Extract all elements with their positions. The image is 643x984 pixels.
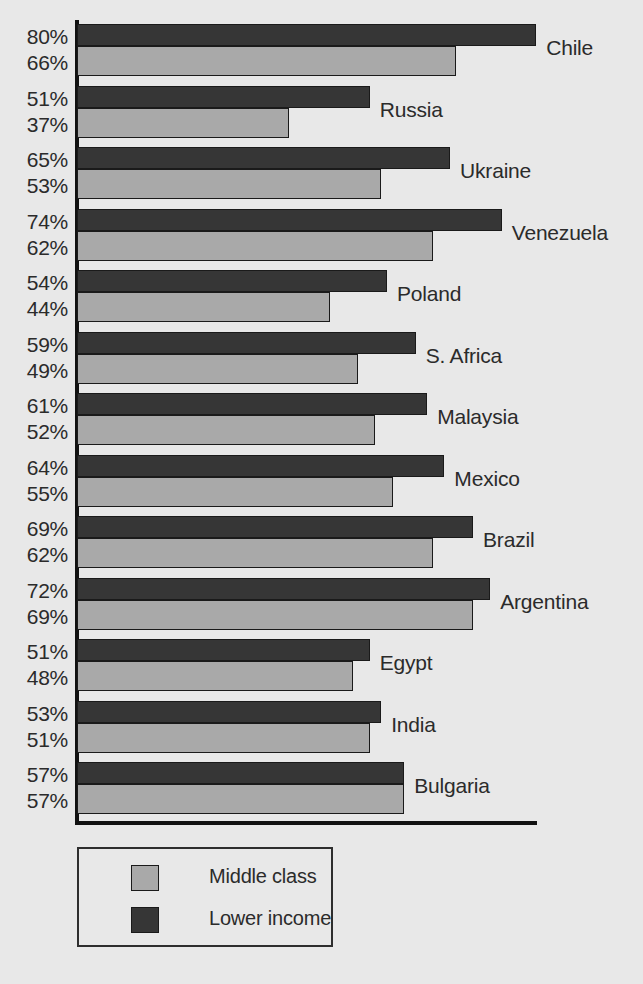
bar-lower-income (77, 701, 381, 723)
bar-row: 72%69%Argentina (0, 578, 643, 630)
category-label: Mexico (454, 467, 519, 491)
bar-middle-class (77, 415, 375, 445)
value-label-middle-class: 57% (0, 788, 68, 814)
category-label: Malaysia (437, 405, 518, 429)
bar-lower-income (77, 455, 444, 477)
value-label-middle-class: 53% (0, 173, 68, 199)
value-labels: 80%66% (0, 24, 68, 76)
chart-legend: Middle class Lower income (77, 847, 333, 947)
value-labels: 59%49% (0, 332, 68, 384)
bar-middle-class (77, 784, 404, 814)
value-labels: 51%37% (0, 86, 68, 138)
bar-row: 51%37%Russia (0, 86, 643, 138)
bar-middle-class (77, 169, 381, 199)
category-label: S. Africa (426, 344, 502, 368)
value-labels: 65%53% (0, 147, 68, 199)
value-labels: 54%44% (0, 270, 68, 322)
value-label-lower-income: 69% (0, 516, 68, 542)
value-label-middle-class: 62% (0, 235, 68, 261)
bar-lower-income (77, 639, 370, 661)
value-label-middle-class: 69% (0, 604, 68, 630)
x-axis-line (75, 821, 537, 825)
bar-row: 51%48%Egypt (0, 639, 643, 691)
bar-middle-class (77, 723, 370, 753)
bar-row: 64%55%Mexico (0, 455, 643, 507)
value-label-lower-income: 54% (0, 270, 68, 296)
bar-middle-class (77, 538, 433, 568)
category-label: Chile (546, 36, 593, 60)
value-label-middle-class: 52% (0, 419, 68, 445)
bar-middle-class (77, 354, 358, 384)
value-labels: 61%52% (0, 393, 68, 445)
bar-lower-income (77, 209, 502, 231)
plot-area: 80%66%Chile51%37%Russia65%53%Ukraine74%6… (0, 0, 643, 830)
bar-lower-income (77, 147, 450, 169)
bar-lower-income (77, 516, 473, 538)
bar-middle-class (77, 108, 289, 138)
bar-chart: 80%66%Chile51%37%Russia65%53%Ukraine74%6… (0, 0, 643, 984)
value-label-middle-class: 62% (0, 542, 68, 568)
value-label-middle-class: 44% (0, 296, 68, 322)
bar-row: 57%57%Bulgaria (0, 762, 643, 814)
value-labels: 72%69% (0, 578, 68, 630)
bar-middle-class (77, 477, 393, 507)
bar-lower-income (77, 332, 416, 354)
value-label-middle-class: 66% (0, 50, 68, 76)
category-label: Bulgaria (414, 774, 489, 798)
bar-row: 61%52%Malaysia (0, 393, 643, 445)
bar-row: 59%49%S. Africa (0, 332, 643, 384)
value-label-middle-class: 37% (0, 112, 68, 138)
value-label-lower-income: 59% (0, 332, 68, 358)
category-label: Poland (397, 282, 461, 306)
value-label-middle-class: 55% (0, 481, 68, 507)
bar-middle-class (77, 661, 353, 691)
value-label-middle-class: 51% (0, 727, 68, 753)
value-label-lower-income: 80% (0, 24, 68, 50)
bar-middle-class (77, 600, 473, 630)
legend-label-lower-income: Lower income (209, 907, 331, 930)
category-label: India (391, 713, 436, 737)
category-label: Brazil (483, 528, 534, 552)
category-label: Egypt (380, 651, 433, 675)
value-labels: 57%57% (0, 762, 68, 814)
bar-lower-income (77, 393, 427, 415)
bar-middle-class (77, 231, 433, 261)
value-label-lower-income: 51% (0, 86, 68, 112)
bar-lower-income (77, 270, 387, 292)
bar-middle-class (77, 292, 330, 322)
value-label-lower-income: 57% (0, 762, 68, 788)
value-label-lower-income: 72% (0, 578, 68, 604)
value-label-lower-income: 64% (0, 455, 68, 481)
legend-label-middle-class: Middle class (209, 865, 317, 888)
value-label-lower-income: 74% (0, 209, 68, 235)
value-label-lower-income: 65% (0, 147, 68, 173)
bar-row: 53%51%India (0, 701, 643, 753)
value-labels: 51%48% (0, 639, 68, 691)
bar-lower-income (77, 578, 490, 600)
bar-row: 80%66%Chile (0, 24, 643, 76)
bar-row: 74%62%Venezuela (0, 209, 643, 261)
bar-lower-income (77, 24, 536, 46)
legend-swatch-middle-class (131, 865, 159, 891)
value-labels: 69%62% (0, 516, 68, 568)
value-label-middle-class: 48% (0, 665, 68, 691)
value-labels: 53%51% (0, 701, 68, 753)
category-label: Argentina (500, 590, 588, 614)
bar-row: 54%44%Poland (0, 270, 643, 322)
bar-middle-class (77, 46, 456, 76)
category-label: Ukraine (460, 159, 531, 183)
value-label-lower-income: 61% (0, 393, 68, 419)
category-label: Russia (380, 98, 443, 122)
legend-swatch-lower-income (131, 907, 159, 933)
value-labels: 74%62% (0, 209, 68, 261)
value-label-lower-income: 51% (0, 639, 68, 665)
bar-row: 69%62%Brazil (0, 516, 643, 568)
value-label-middle-class: 49% (0, 358, 68, 384)
bar-lower-income (77, 86, 370, 108)
value-labels: 64%55% (0, 455, 68, 507)
bar-row: 65%53%Ukraine (0, 147, 643, 199)
value-label-lower-income: 53% (0, 701, 68, 727)
bar-lower-income (77, 762, 404, 784)
category-label: Venezuela (512, 221, 608, 245)
